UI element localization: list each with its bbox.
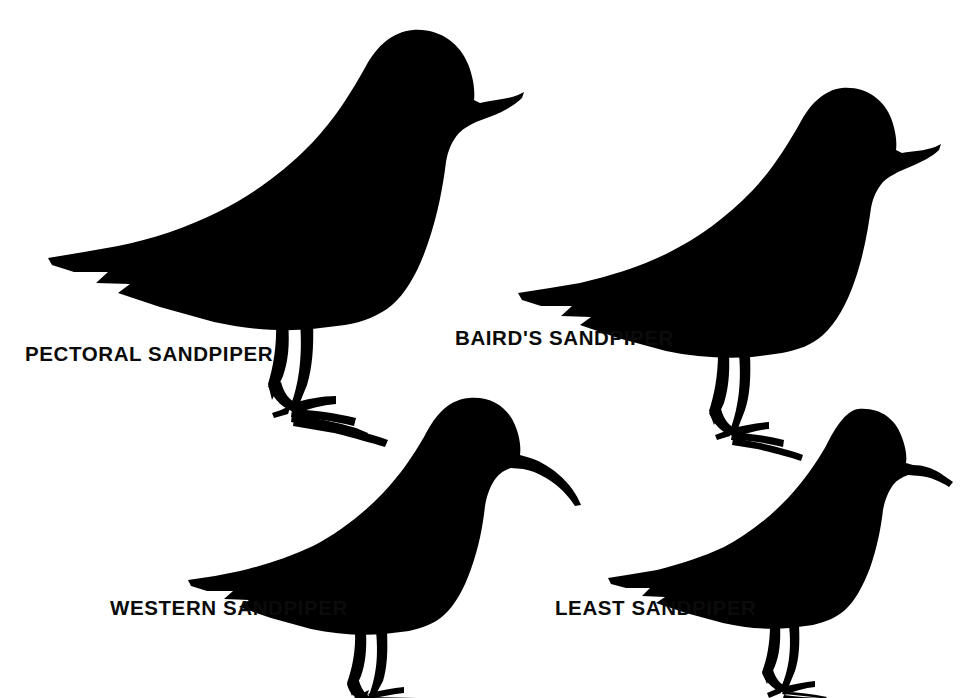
bairds-sandpiper-silhouette: [518, 88, 941, 461]
sandpiper-silhouette-plate: PECTORAL SANDPIPER BAIRD'S SANDPIPER WES…: [0, 0, 973, 698]
label-western-sandpiper: WESTERN SANDPIPER: [110, 598, 348, 619]
label-pectoral-sandpiper: PECTORAL SANDPIPER: [25, 344, 273, 365]
label-bairds-sandpiper: BAIRD'S SANDPIPER: [455, 328, 674, 349]
pectoral-sandpiper-silhouette: [48, 30, 524, 447]
label-least-sandpiper: LEAST SANDPIPER: [555, 598, 757, 619]
